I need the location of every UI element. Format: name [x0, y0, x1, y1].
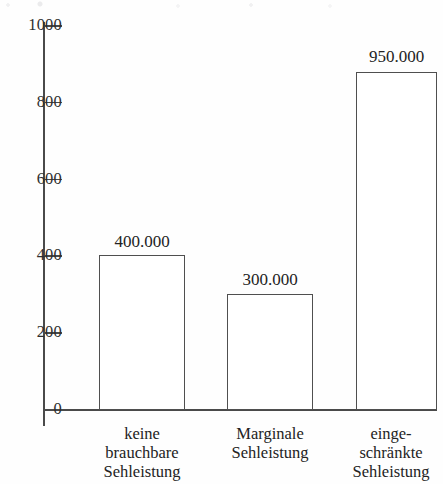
- x-axis-category-label-3: einge- schränkte Sehleistung: [339, 424, 443, 481]
- category-label-line: schränkte: [339, 443, 443, 462]
- bar-eingeschraenkte-sehleistung: [356, 72, 437, 411]
- category-label-line: Sehleistung: [84, 462, 200, 481]
- category-label-line: Sehleistung: [212, 443, 328, 462]
- category-label-line: keine: [84, 424, 200, 443]
- category-label-line: Marginale: [212, 424, 328, 443]
- y-tick-label: 0: [20, 401, 62, 418]
- y-tick-label: 200: [20, 324, 62, 341]
- y-tick-label: 800: [20, 94, 62, 111]
- category-label-line: Sehleistung: [339, 462, 443, 481]
- y-axis-line: [43, 22, 45, 426]
- category-label-line: brauchbare: [84, 443, 200, 462]
- bar-marginale-sehleistung: [227, 294, 313, 410]
- category-label-line: einge-: [339, 424, 443, 443]
- bar-keine-brauchbare-sehleistung: [99, 255, 185, 410]
- y-tick-label: 1000: [20, 17, 62, 34]
- bar-chart-figure: 1000 800 600 400 200 0 400.000 keine bra…: [0, 0, 443, 484]
- x-axis-category-label-1: keine brauchbare Sehleistung: [84, 424, 200, 481]
- y-tick-label: 400: [20, 247, 62, 264]
- y-tick-label: 600: [20, 171, 62, 188]
- bar-value-label: 300.000: [227, 271, 313, 288]
- plot-area: 1000 800 600 400 200 0 400.000 keine bra…: [0, 0, 443, 484]
- bar-value-label: 400.000: [99, 233, 185, 250]
- x-axis-category-label-2: Marginale Sehleistung: [212, 424, 328, 462]
- bar-value-label: 950.000: [352, 48, 441, 65]
